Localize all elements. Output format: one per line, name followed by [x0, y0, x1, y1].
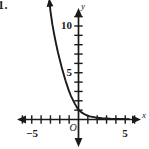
origin-label: O: [69, 122, 76, 133]
y-tick-label-10: 10: [61, 19, 73, 31]
x-axis-left-arrow-icon: [17, 116, 26, 124]
x-tick-label-minus-5: −5: [26, 127, 38, 139]
y-tick-label-5: 5: [67, 66, 73, 78]
coordinate-plane: 10 5 −5 5 O x y: [0, 0, 149, 149]
y-axis-name-label: y: [80, 1, 85, 11]
x-tick-label-5: 5: [122, 127, 128, 139]
exponential-graph-figure: 1. 10 5 −5 5 O x y: [0, 0, 149, 149]
y-axis-bottom-arrow-icon: [75, 138, 83, 147]
x-axis-right-arrow-icon: [132, 116, 141, 124]
curve-upward-arrow-icon: [47, 0, 54, 7]
x-axis-name-label: x: [141, 110, 146, 120]
